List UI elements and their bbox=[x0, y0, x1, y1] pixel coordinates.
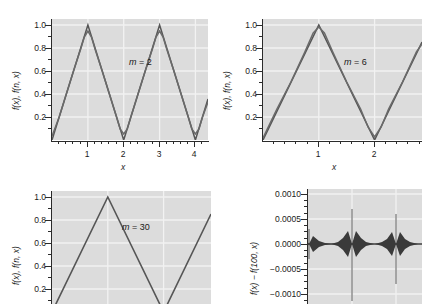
panel-error-ytick bbox=[301, 269, 307, 270]
panel-m2-ytick-minor bbox=[48, 36, 51, 37]
panel-m6-ytick-minor bbox=[259, 59, 262, 60]
panel-m6-ytick-label: 0.2 bbox=[229, 113, 257, 122]
panel-m30-annotation-symbol: m bbox=[122, 222, 130, 232]
panel-error-ytick-minor bbox=[304, 263, 307, 264]
panel-error-ytick-label: −0.0005 bbox=[251, 265, 301, 274]
panel-error-ytick-label: 0.0000 bbox=[256, 240, 301, 249]
panel-m2-xtick-minor bbox=[101, 141, 102, 144]
panel-error-ytick-label: 0.0005 bbox=[256, 215, 301, 224]
panel-m2-annotation: m = 2 bbox=[129, 58, 152, 67]
panel-m2-xtick-minor bbox=[72, 141, 73, 144]
panel-m6-ytick-label: 0.8 bbox=[229, 44, 257, 53]
panel-m6-ytick-minor bbox=[259, 105, 262, 106]
panel-m2-ytick bbox=[45, 25, 51, 26]
panel-m6-xtick-minor bbox=[284, 141, 285, 144]
panel-m6-ytick bbox=[256, 25, 262, 26]
panel-m6-xtick-minor bbox=[340, 141, 341, 144]
panel-m30-ytick bbox=[45, 289, 51, 290]
panel-m30-ytick bbox=[45, 220, 51, 221]
panel-m2-ytick-label: 0.4 bbox=[18, 90, 46, 99]
panel-m6-ytick-minor bbox=[259, 128, 262, 129]
panel-m2-xtick-minor bbox=[144, 141, 145, 144]
panel-m2-xtick-minor bbox=[108, 141, 109, 144]
panel-m6-xtick-minor bbox=[407, 141, 408, 144]
panel-m2-ytick-minor bbox=[48, 105, 51, 106]
panel-m2-ytick bbox=[45, 94, 51, 95]
panel-m2-xtick-minor bbox=[152, 141, 153, 144]
panel-error-ytick-minor bbox=[304, 250, 307, 251]
panel-m30-ytick-label: 0.6 bbox=[18, 239, 46, 248]
panel-error-ytick-minor bbox=[304, 275, 307, 276]
panel-m6-ytick bbox=[256, 71, 262, 72]
panel-error-ytick-minor bbox=[304, 213, 307, 214]
panel-m2-xtick bbox=[194, 141, 195, 147]
panel-error-ytick-label: −0.0010 bbox=[251, 290, 301, 299]
panel-error-ytick-minor bbox=[304, 300, 307, 301]
panel-m6-xtick-minor bbox=[329, 141, 330, 144]
panel-m6-ytick bbox=[256, 94, 262, 95]
panel-m30-ytick bbox=[45, 197, 51, 198]
panel-m2-xtick-minor bbox=[130, 141, 131, 144]
panel-m6-xaxis bbox=[262, 141, 422, 142]
panel-m30-ytick-label: 0.4 bbox=[18, 262, 46, 271]
panel-m30-ytick-minor bbox=[48, 254, 51, 255]
panel-m2-xtick bbox=[159, 141, 160, 147]
panel-m30-ytick-label: 0.2 bbox=[18, 285, 46, 294]
panel-error-ytick-minor bbox=[304, 200, 307, 201]
panel-error-ytick-label: 0.0010 bbox=[256, 190, 301, 199]
panel-m6-xtick-minor bbox=[295, 141, 296, 144]
panel-m6-ytick-label: 0.4 bbox=[229, 90, 257, 99]
panel-m2-ytick-label: 0.6 bbox=[18, 67, 46, 76]
panel-error-ytick-minor bbox=[304, 206, 307, 207]
panel-m6-annotation-symbol: m bbox=[344, 57, 352, 67]
panel-m2-annotation-symbol: m bbox=[129, 57, 137, 67]
panel-m2-xtick bbox=[87, 141, 88, 147]
panel-error-ytick-minor bbox=[304, 238, 307, 239]
panel-error-curves bbox=[308, 189, 422, 304]
panel-m2-xtick-minor bbox=[80, 141, 81, 144]
panel-m6-ytick-label: 0.6 bbox=[229, 67, 257, 76]
panel-m6-xtick-minor bbox=[273, 141, 274, 144]
panel-m2-ytick bbox=[45, 117, 51, 118]
panel-m6-xtick-minor bbox=[363, 141, 364, 144]
panel-m6-xtick-minor bbox=[385, 141, 386, 144]
panel-m2-xtick-minor bbox=[116, 141, 117, 144]
panel-m2-xtick-minor bbox=[187, 141, 188, 144]
panel-m2-xtick-minor bbox=[94, 141, 95, 144]
panel-m30-ytick-minor bbox=[48, 231, 51, 232]
panel-error-ytick-minor bbox=[304, 256, 307, 257]
panel-m6-xtick bbox=[374, 141, 375, 147]
panel-error-ytick-minor bbox=[304, 288, 307, 289]
panel-m2-xtick-minor bbox=[137, 141, 138, 144]
panel-m6-annotation: m = 6 bbox=[344, 58, 367, 67]
panel-m2-ytick-label: 0.2 bbox=[18, 113, 46, 122]
panel-m2-xtick-minor bbox=[173, 141, 174, 144]
panel-m30-ytick bbox=[45, 266, 51, 267]
panel-m2-xtick-minor bbox=[201, 141, 202, 144]
panel-error-ytick-minor bbox=[304, 231, 307, 232]
panel-m30-ytick-minor bbox=[48, 208, 51, 209]
panel-m2-ytick-minor bbox=[48, 128, 51, 129]
panel-m30-annotation-value: = 30 bbox=[130, 222, 150, 232]
panel-m2-ytick-minor bbox=[48, 82, 51, 83]
panel-m6-xtick-minor bbox=[351, 141, 352, 144]
panel-m30-annotation: m = 30 bbox=[122, 223, 150, 232]
panel-m2-ytick bbox=[45, 71, 51, 72]
panel-error-ytick bbox=[301, 194, 307, 195]
panel-error-ytick bbox=[301, 294, 307, 295]
panel-m2-ytick-label: 1.0 bbox=[18, 21, 46, 30]
panel-m30-ytick-minor bbox=[48, 300, 51, 301]
panel-m2-ytick bbox=[45, 48, 51, 49]
panel-error-ytick bbox=[301, 244, 307, 245]
panel-m6-xtick-minor bbox=[307, 141, 308, 144]
panel-m2-xtick-minor bbox=[58, 141, 59, 144]
panel-m6-xtick-minor bbox=[419, 141, 420, 144]
panel-m6-plot-area bbox=[263, 19, 422, 140]
figure-multipanel-fourier: f(x), f(n, x) 1.0 0.8 0.6 0.4 0.2 bbox=[0, 0, 422, 304]
panel-m30-yaxis bbox=[51, 191, 52, 304]
panel-m2-yaxis bbox=[51, 19, 52, 141]
panel-m2-xtick-minor bbox=[180, 141, 181, 144]
panel-error-yaxis bbox=[307, 189, 308, 304]
panel-m2-plot-area bbox=[52, 19, 208, 140]
panel-m6-ytick-label: 1.0 bbox=[229, 21, 257, 30]
